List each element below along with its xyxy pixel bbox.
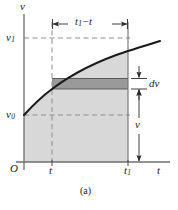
v0-label: v0 — [6, 109, 15, 121]
y-axis-label: v — [20, 1, 25, 12]
v-right-label: v — [135, 119, 140, 130]
t1-tick-sub: 1 — [127, 168, 131, 177]
x-axis-label: t — [157, 165, 160, 176]
figure-container: v v1 v0 O t t1 t t1−t dv v (a) — [0, 0, 178, 210]
velocity-time-graph — [0, 0, 178, 210]
t-tick-label: t — [49, 165, 52, 176]
t1-tick-label: t1 — [124, 165, 131, 177]
origin-label: O — [10, 163, 18, 174]
interval-label-rest: −t — [82, 16, 92, 27]
v1-label: v1 — [6, 32, 15, 44]
area-under-curve-fill — [24, 51, 128, 162]
figure-caption: (a) — [80, 186, 91, 196]
v1-label-sub: 1 — [11, 35, 15, 44]
dv-label: dv — [149, 78, 159, 89]
dv-strip-fill — [52, 78, 128, 89]
interval-label: t1−t — [75, 17, 92, 28]
v0-label-sub: 0 — [11, 112, 15, 121]
